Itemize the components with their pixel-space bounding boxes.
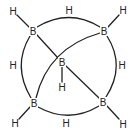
atom-h-right: H xyxy=(118,60,125,71)
bond-b-top-right-h xyxy=(108,15,119,27)
atom-h-top: H xyxy=(65,5,72,16)
atom-h-center: H xyxy=(58,82,65,93)
ring-arc-left xyxy=(21,36,31,98)
atom-h-left: H xyxy=(9,60,16,71)
atom-b-top-left: B xyxy=(30,26,37,37)
atom-b-bottom-right: B xyxy=(100,97,107,108)
atom-h-bottom-right: H xyxy=(119,119,126,130)
bond-b-bottom-right-h xyxy=(107,106,119,119)
ring-arc-bottom xyxy=(38,106,99,115)
borane-structure-diagram: B B B B B H H H H H H H H H xyxy=(0,0,136,140)
bridge-curve xyxy=(36,33,100,98)
bond-b-bottom-left-h xyxy=(19,107,30,119)
bond-top-left-to-center xyxy=(37,35,58,58)
atom-h-top-left: H xyxy=(9,6,16,17)
bond-center-to-bottom-right xyxy=(66,66,99,98)
atom-h-bottom: H xyxy=(62,118,69,129)
atom-b-center: B xyxy=(59,57,66,68)
atom-b-top-right: B xyxy=(101,26,108,37)
ring-arc-top xyxy=(37,18,100,28)
atom-h-top-right: H xyxy=(119,5,126,16)
atom-h-bottom-left: H xyxy=(11,118,18,129)
atom-b-bottom-left: B xyxy=(31,98,38,109)
ring-arc-right xyxy=(106,36,116,97)
bond-b-top-left-h xyxy=(17,15,29,27)
